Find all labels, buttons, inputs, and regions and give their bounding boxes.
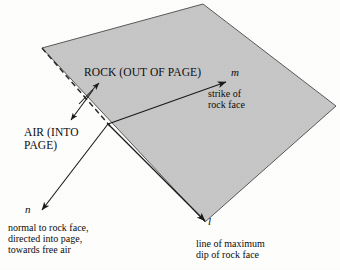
vector-l-label: l xyxy=(208,215,211,227)
normal-description-label: normal to rock face, directed into page,… xyxy=(8,222,89,256)
vector-n-label: n xyxy=(25,203,31,215)
rock-plane-surface xyxy=(42,4,336,222)
vector-m-label: m xyxy=(231,66,239,78)
dip-description-label: line of maximum dip of rock face xyxy=(196,238,265,260)
rock-region-label: ROCK (OUT OF PAGE) xyxy=(84,66,201,79)
figure-panel-b: ROCK (OUT OF PAGE) AIR (INTO PAGE) m str… xyxy=(0,0,340,270)
strike-description-label: strike of rock face xyxy=(208,88,245,110)
air-region-label: AIR (INTO PAGE) xyxy=(24,126,79,152)
air-side-arrow xyxy=(71,90,93,120)
